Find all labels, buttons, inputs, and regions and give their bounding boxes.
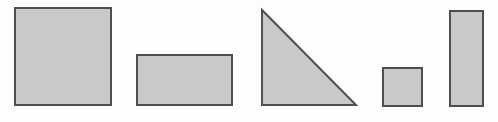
wide-rectangle	[137, 55, 232, 105]
small-square	[383, 68, 422, 106]
right-triangle	[262, 10, 356, 105]
large-square	[15, 8, 111, 105]
geometric-shapes-canvas	[0, 0, 498, 122]
shapes-svg-root	[0, 0, 498, 122]
tall-rectangle	[450, 11, 483, 106]
